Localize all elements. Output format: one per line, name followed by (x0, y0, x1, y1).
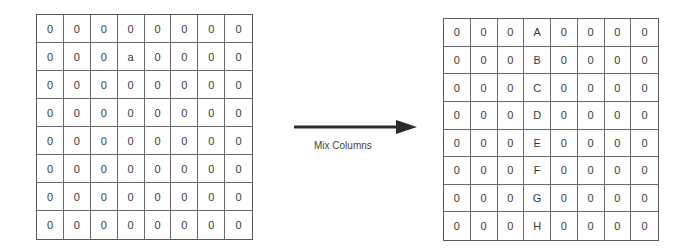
matrix-cell: 0 (631, 212, 658, 240)
matrix-cell: 0 (198, 127, 225, 155)
matrix-cell: 0 (498, 157, 525, 185)
matrix-cell: 0 (578, 157, 605, 185)
matrix-cell: 0 (578, 185, 605, 213)
matrix-cell: 0 (171, 15, 198, 43)
matrix-cell: 0 (605, 185, 632, 213)
matrix-cell: 0 (145, 99, 172, 127)
matrix-cell: H (524, 212, 551, 240)
matrix-cell: 0 (578, 74, 605, 102)
matrix-cell: 0 (64, 99, 91, 127)
matrix-cell: 0 (171, 127, 198, 155)
matrix-cell: 0 (578, 212, 605, 240)
matrix-cell: 0 (551, 185, 578, 213)
matrix-cell: 0 (631, 19, 658, 47)
matrix-cell: 0 (37, 155, 64, 183)
matrix-cell: B (524, 47, 551, 75)
matrix-cell: 0 (91, 211, 118, 239)
matrix-cell: 0 (64, 127, 91, 155)
matrix-cell: 0 (444, 102, 471, 130)
matrix-cell: 0 (498, 102, 525, 130)
matrix-cell: 0 (37, 15, 64, 43)
matrix-cell: 0 (145, 127, 172, 155)
matrix-cell: a (118, 43, 145, 71)
matrix-cell: 0 (444, 212, 471, 240)
matrix-cell: 0 (198, 99, 225, 127)
matrix-cell: 0 (498, 212, 525, 240)
matrix-cell: 0 (37, 183, 64, 211)
matrix-cell: 0 (551, 157, 578, 185)
matrix-cell: 0 (37, 43, 64, 71)
matrix-cell: 0 (91, 127, 118, 155)
matrix-cell: 0 (37, 127, 64, 155)
mix-columns-label: Mix Columns (314, 140, 372, 151)
matrix-cell: 0 (91, 43, 118, 71)
matrix-cell: 0 (145, 15, 172, 43)
matrix-cell: 0 (471, 47, 498, 75)
matrix-cell: 0 (498, 19, 525, 47)
matrix-cell: 0 (578, 102, 605, 130)
matrix-cell: 0 (444, 19, 471, 47)
matrix-cell: 0 (198, 15, 225, 43)
matrix-cell: 0 (605, 102, 632, 130)
matrix-cell: 0 (64, 43, 91, 71)
matrix-cell: 0 (471, 130, 498, 158)
matrix-cell: 0 (37, 99, 64, 127)
matrix-cell: 0 (118, 15, 145, 43)
matrix-cell: 0 (37, 71, 64, 99)
matrix-cell: 0 (145, 155, 172, 183)
matrix-cell: 0 (444, 130, 471, 158)
matrix-cell: 0 (198, 71, 225, 99)
matrix-cell: 0 (91, 99, 118, 127)
matrix-cell: 0 (225, 155, 252, 183)
matrix-cell: 0 (171, 183, 198, 211)
matrix-cell: 0 (551, 102, 578, 130)
matrix-cell: D (524, 102, 551, 130)
matrix-cell: 0 (444, 157, 471, 185)
matrix-cell: 0 (91, 71, 118, 99)
matrix-cell: 0 (64, 155, 91, 183)
matrix-cell: 0 (64, 71, 91, 99)
matrix-cell: 0 (605, 74, 632, 102)
matrix-cell: 0 (631, 74, 658, 102)
matrix-cell: 0 (605, 157, 632, 185)
matrix-cell: 0 (91, 155, 118, 183)
matrix-cell: 0 (631, 102, 658, 130)
output-state-matrix: 000A0000000B0000000C0000000D0000000E0000… (443, 18, 659, 241)
matrix-cell: 0 (171, 71, 198, 99)
matrix-cell: 0 (171, 155, 198, 183)
matrix-cell: A (524, 19, 551, 47)
matrix-cell: 0 (91, 15, 118, 43)
matrix-cell: 0 (444, 185, 471, 213)
matrix-cell: 0 (118, 183, 145, 211)
matrix-cell: 0 (498, 130, 525, 158)
matrix-cell: 0 (578, 19, 605, 47)
matrix-cell: 0 (171, 43, 198, 71)
matrix-cell: 0 (225, 99, 252, 127)
matrix-cell: 0 (631, 130, 658, 158)
matrix-cell: 0 (91, 183, 118, 211)
matrix-cell: 0 (471, 157, 498, 185)
matrix-cell: 0 (225, 71, 252, 99)
input-state-matrix: 00000000000a0000000000000000000000000000… (36, 14, 253, 240)
matrix-cell: 0 (605, 130, 632, 158)
matrix-cell: 0 (551, 19, 578, 47)
matrix-cell: 0 (578, 47, 605, 75)
matrix-cell: E (524, 130, 551, 158)
matrix-cell: 0 (118, 127, 145, 155)
matrix-cell: 0 (118, 155, 145, 183)
matrix-cell: 0 (225, 43, 252, 71)
matrix-cell: 0 (225, 183, 252, 211)
matrix-cell: 0 (64, 183, 91, 211)
matrix-cell: 0 (198, 211, 225, 239)
matrix-cell: 0 (444, 74, 471, 102)
matrix-cell: 0 (551, 212, 578, 240)
matrix-cell: 0 (64, 211, 91, 239)
matrix-cell: 0 (471, 212, 498, 240)
matrix-cell: 0 (498, 74, 525, 102)
matrix-cell: 0 (471, 102, 498, 130)
matrix-cell: 0 (551, 74, 578, 102)
matrix-cell: F (524, 157, 551, 185)
matrix-cell: 0 (198, 155, 225, 183)
matrix-cell: 0 (631, 47, 658, 75)
matrix-cell: 0 (198, 183, 225, 211)
